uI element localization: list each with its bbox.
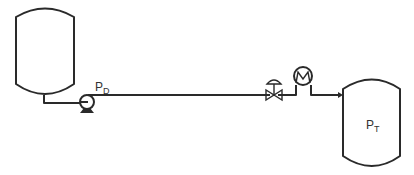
discharge-pressure-label: PD bbox=[95, 80, 110, 96]
flow-meter-icon bbox=[294, 67, 312, 85]
pump-icon bbox=[80, 95, 94, 113]
supply-tank bbox=[16, 9, 74, 95]
pump-suction-line bbox=[44, 95, 80, 103]
control-valve-icon bbox=[266, 80, 282, 100]
tank-pressure-label: PT bbox=[366, 118, 380, 134]
process-diagram bbox=[0, 0, 414, 175]
